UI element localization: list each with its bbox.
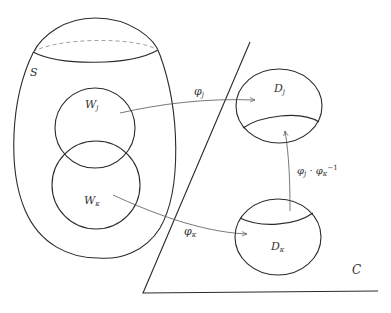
neighborhood-wk-label: Wκ <box>84 195 100 208</box>
dj-sub: j <box>283 88 285 96</box>
disk-dj-outline <box>236 69 322 143</box>
dk-sub: κ <box>280 246 285 254</box>
wk-sub: κ <box>95 200 100 208</box>
map-phi-j-label: φj <box>194 86 204 99</box>
transition-b-base: φ <box>316 165 323 176</box>
disk-dj-label: Dj <box>274 83 285 96</box>
phi-k-sub: κ <box>192 231 197 239</box>
transition-a-sub: j <box>304 170 306 178</box>
map-phi-j-arrow <box>120 100 255 113</box>
disk-dk-label: Dκ <box>271 241 284 254</box>
surface-s-label-text: S <box>30 66 38 79</box>
map-phi-k-label: φκ <box>184 226 196 239</box>
transition-b-sup: −1 <box>327 164 337 172</box>
plane-c-label-text: C <box>352 263 361 277</box>
disk-dk-outline <box>235 199 321 275</box>
neighborhood-wj-label: Wj <box>85 99 98 112</box>
disk-dj-inner-arc <box>243 115 319 128</box>
disk-dk-inner-arc <box>240 213 313 224</box>
plane-c-label: C <box>352 264 361 276</box>
wj-sub: j <box>96 104 98 112</box>
dj-base: D <box>274 82 283 95</box>
plane-c-outline <box>143 42 378 293</box>
phi-j-sub: j <box>202 91 204 99</box>
diagram-drawing <box>0 0 391 313</box>
surface-s-label: S <box>30 67 38 78</box>
transition-dot: · <box>309 165 312 176</box>
neighborhood-wk-circle <box>52 141 140 229</box>
dk-base: D <box>271 240 280 253</box>
wk-base: W <box>84 194 95 207</box>
wj-base: W <box>85 98 96 111</box>
phi-k-base: φ <box>184 225 192 238</box>
transition-a-base: φ <box>297 165 304 176</box>
phi-j-base: φ <box>194 85 202 98</box>
surface-rim-front <box>33 50 158 62</box>
map-transition-label: φj · φκ−1 <box>297 165 338 178</box>
coordinate-chart-diagram: S Wj Wκ Dj Dκ φj φκ φj · φκ−1 C <box>0 0 391 313</box>
surface-rim-back <box>33 40 158 52</box>
map-phi-k-arrow <box>113 195 247 234</box>
